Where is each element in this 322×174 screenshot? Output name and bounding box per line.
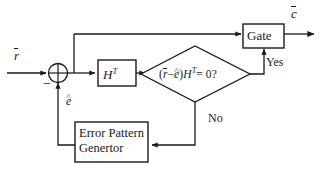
overbar-icon — [14, 48, 18, 49]
summing-junction-sign: − — [43, 77, 51, 91]
hat-icon: ^ — [67, 93, 71, 102]
output-signal-label: c — [291, 7, 297, 20]
transpose-base: H — [103, 67, 112, 82]
error-pattern-generator-label-line2: Genertor — [79, 142, 123, 155]
no-branch-label: No — [208, 112, 223, 124]
expr-minus: − — [168, 68, 175, 80]
block-diagram: Gate HT Error Pattern Genertor (r−e^)HT=… — [0, 0, 322, 174]
r-symbol: r — [14, 48, 19, 63]
expr-r-overbar: r — [163, 69, 168, 81]
c-overbar-group: c — [291, 7, 297, 20]
yes-branch-path — [250, 49, 264, 74]
e-hat-group: e^ — [66, 95, 71, 107]
r-overbar-group: r — [14, 49, 19, 62]
overbar-icon — [163, 68, 167, 69]
transpose-superscript: T — [112, 66, 117, 76]
expr-h-symbol: H — [183, 68, 191, 80]
hat-icon: ^ — [175, 67, 179, 76]
gate-label: Gate — [247, 29, 272, 42]
input-signal-label: r — [14, 49, 19, 62]
error-estimate-label: e^ — [66, 95, 71, 107]
overbar-icon — [291, 6, 296, 7]
expr-e-hat: e^ — [174, 69, 179, 81]
transpose-block-label: HT — [103, 67, 117, 81]
c-symbol: c — [291, 6, 297, 21]
decision-expression: (r−e^)HT= 0? — [159, 67, 217, 80]
expr-r-symbol: r — [163, 68, 168, 80]
expr-equals-zero: = 0? — [196, 68, 217, 80]
error-pattern-generator-label-line1: Error Pattern — [79, 127, 144, 140]
yes-branch-label: Yes — [266, 56, 283, 68]
no-branch-path — [152, 102, 195, 145]
